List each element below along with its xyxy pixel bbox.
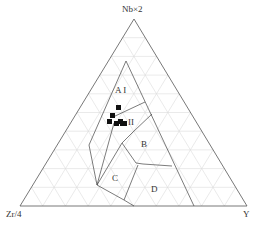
grid-line (31, 187, 42, 206)
grid-line (77, 113, 134, 207)
grid-line (179, 150, 213, 206)
region-label-c: C (112, 173, 118, 183)
ternary-diagram (0, 0, 263, 230)
grid-line (54, 150, 88, 206)
axis-label-right: Y (243, 209, 250, 219)
grid-line (134, 113, 191, 207)
grid-line (123, 38, 225, 206)
data-point-marker (122, 121, 127, 126)
boundary-ii-b (122, 114, 152, 143)
region-label-d: D (151, 184, 158, 194)
boundary-b-c (97, 143, 122, 185)
boundary-b-d (136, 163, 172, 166)
boundary-a-right (126, 61, 194, 206)
grid-line (100, 75, 179, 206)
axis-label-left: Zr/4 (6, 209, 22, 219)
boundary-c-d (124, 165, 138, 200)
data-point-marker (110, 113, 115, 118)
data-point-marker (107, 119, 112, 124)
region-label-a: A I (115, 85, 126, 95)
data-point-marker (116, 105, 121, 110)
axis-label-top: Nb×2 (122, 4, 143, 14)
region-label-b: B (141, 139, 147, 149)
grid-line (224, 187, 235, 206)
region-label-ii: II (128, 117, 134, 127)
